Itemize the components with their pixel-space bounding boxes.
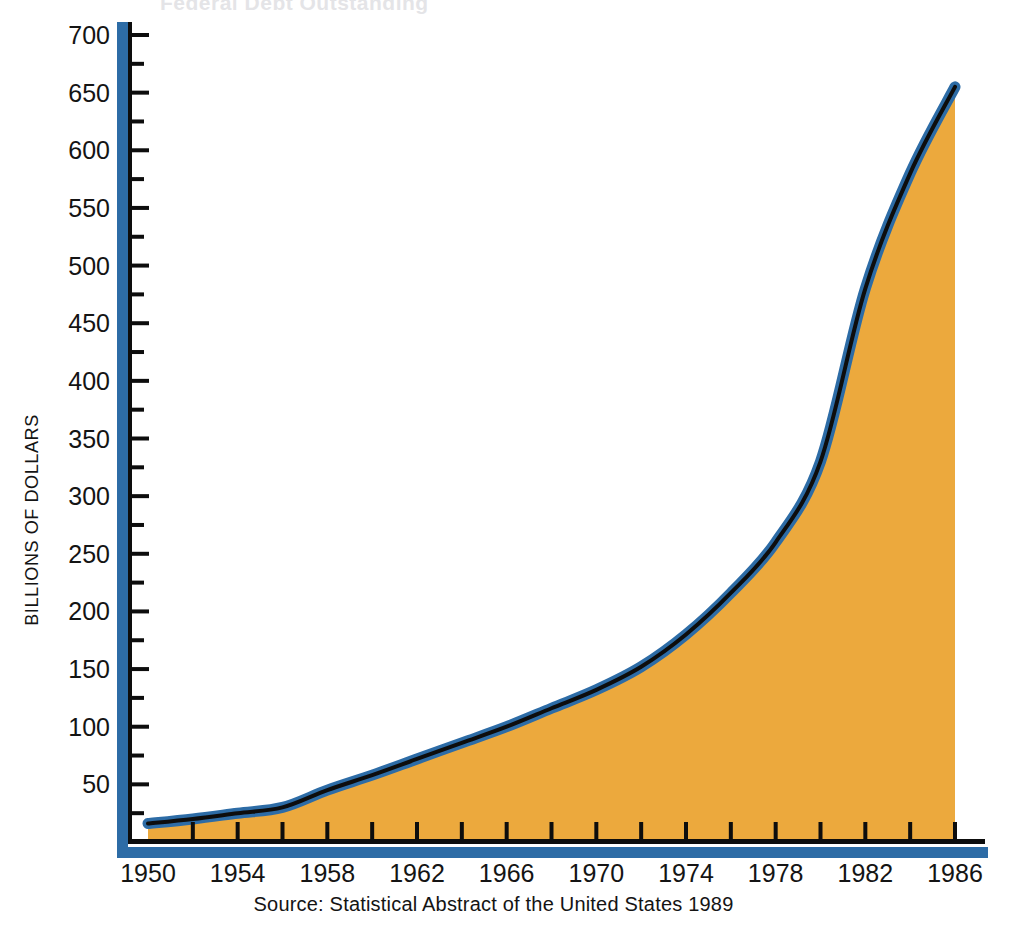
y-axis-minor-tick bbox=[132, 350, 144, 354]
y-axis-tick-labels: 5010015020025030035040045050055060065070… bbox=[68, 21, 110, 798]
source-note: Source: Statistical Abstract of the Unit… bbox=[0, 893, 1035, 916]
y-axis-title: BILLIONS OF DOLLARS bbox=[22, 414, 42, 625]
x-axis-minor-tick bbox=[325, 822, 329, 840]
x-axis-tick-label: 1966 bbox=[479, 859, 535, 887]
x-axis-tick-label: 1970 bbox=[569, 859, 625, 887]
y-axis-minor-tick bbox=[132, 638, 144, 642]
x-axis-minor-tick bbox=[505, 822, 509, 840]
x-axis-tick-label: 1982 bbox=[838, 859, 894, 887]
x-axis-tick-label: 1962 bbox=[389, 859, 445, 887]
y-axis-major-tick bbox=[132, 609, 149, 613]
y-axis-minor-tick bbox=[132, 408, 144, 412]
x-axis-minor-tick bbox=[594, 822, 598, 840]
x-axis-tick-label: 1974 bbox=[658, 859, 714, 887]
y-axis-major-tick bbox=[132, 782, 149, 786]
x-axis-minor-tick bbox=[370, 822, 374, 840]
y-axis-minor-tick bbox=[132, 62, 144, 66]
y-axis-tick-label: 450 bbox=[68, 309, 110, 337]
x-axis-minor-tick bbox=[639, 822, 643, 840]
y-axis-major-tick bbox=[132, 494, 149, 498]
y-axis-major-tick bbox=[132, 33, 149, 37]
x-axis-minor-tick bbox=[236, 822, 240, 840]
y-axis-minor-tick bbox=[132, 754, 144, 758]
y-axis-minor-tick bbox=[132, 696, 144, 700]
y-axis-tick-label: 550 bbox=[68, 194, 110, 222]
y-axis-tick-label: 250 bbox=[68, 540, 110, 568]
x-axis-minor-tick bbox=[953, 822, 957, 840]
y-axis-major-tick bbox=[132, 148, 149, 152]
y-axis-minor-tick bbox=[132, 177, 144, 181]
y-axis-tick-label: 500 bbox=[68, 252, 110, 280]
y-axis-minor-tick bbox=[132, 235, 144, 239]
y-axis-tick-label: 700 bbox=[68, 21, 110, 49]
y-axis-major-tick bbox=[132, 437, 149, 441]
y-axis-tick-label: 200 bbox=[68, 597, 110, 625]
x-axis-minor-tick bbox=[684, 822, 688, 840]
y-axis-major-tick bbox=[132, 552, 149, 556]
y-axis-tick-label: 650 bbox=[68, 79, 110, 107]
y-axis-minor-tick bbox=[132, 465, 144, 469]
y-axis-minor-tick bbox=[132, 119, 144, 123]
y-axis-tick-label: 300 bbox=[68, 482, 110, 510]
x-axis-minor-tick bbox=[819, 822, 823, 840]
y-axis-major-tick bbox=[132, 91, 149, 95]
chart-figure: Federal Debt Outstanding 501001502002503… bbox=[0, 0, 1035, 927]
x-axis-minor-tick bbox=[281, 822, 285, 840]
y-axis-tick-label: 150 bbox=[68, 655, 110, 683]
y-axis-tick-label: 50 bbox=[82, 770, 110, 798]
y-axis-minor-tick bbox=[132, 811, 144, 815]
y-axis-minor-tick bbox=[132, 523, 144, 527]
x-axis-tick-labels: 1950195419581962196619701974197819821986 bbox=[120, 859, 983, 887]
y-axis-major-tick bbox=[132, 725, 149, 729]
y-axis-major-tick bbox=[132, 206, 149, 210]
y-axis-minor-tick bbox=[132, 292, 144, 296]
x-axis-tick-label: 1958 bbox=[300, 859, 356, 887]
x-axis-tick-label: 1986 bbox=[927, 859, 983, 887]
x-axis-minor-tick bbox=[550, 822, 554, 840]
x-axis-minor-tick bbox=[729, 822, 733, 840]
x-axis-minor-tick bbox=[863, 822, 867, 840]
y-axis-major-tick bbox=[132, 379, 149, 383]
x-axis-tick-label: 1978 bbox=[748, 859, 804, 887]
y-axis-tick-label: 350 bbox=[68, 425, 110, 453]
area-fill-path bbox=[148, 87, 955, 842]
x-axis-minor-tick bbox=[908, 822, 912, 840]
x-axis-minor-tick bbox=[415, 822, 419, 840]
y-axis-tick-label: 100 bbox=[68, 713, 110, 741]
x-axis-tick-label: 1954 bbox=[210, 859, 266, 887]
y-axis-major-tick bbox=[132, 321, 149, 325]
x-axis-tick-label: 1950 bbox=[120, 859, 176, 887]
y-axis-major-tick bbox=[132, 667, 149, 671]
x-axis-minor-tick bbox=[460, 822, 464, 840]
series-layer bbox=[148, 87, 955, 842]
source-note-text: Source: Statistical Abstract of the Unit… bbox=[254, 893, 734, 916]
y-axis-minor-tick bbox=[132, 581, 144, 585]
y-axis-major-tick bbox=[132, 264, 149, 268]
area-chart-svg: 5010015020025030035040045050055060065070… bbox=[0, 0, 1035, 927]
x-axis-minor-tick bbox=[191, 822, 195, 840]
x-axis-minor-tick bbox=[774, 822, 778, 840]
y-axis-tick-label: 600 bbox=[68, 136, 110, 164]
y-axis-tick-label: 400 bbox=[68, 367, 110, 395]
